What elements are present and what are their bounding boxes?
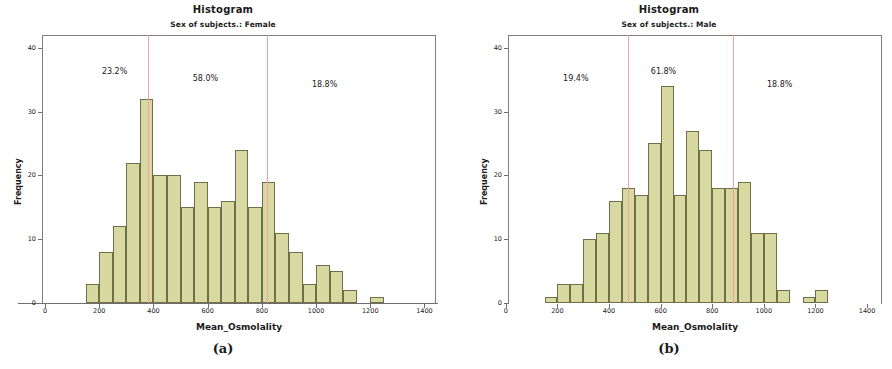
panel-caption-a: (a)	[0, 341, 446, 356]
histogram-bar	[208, 207, 222, 303]
histogram-bar	[235, 150, 249, 303]
x-tick-label: 0	[30, 307, 60, 315]
y-tick-label: 30	[20, 108, 36, 116]
x-tick-mark	[764, 304, 765, 308]
y-axis-label-a: Frequency	[14, 158, 23, 205]
histogram-bar	[751, 233, 764, 303]
x-tick-mark	[867, 304, 868, 308]
x-tick-label: 1000	[301, 307, 331, 315]
x-tick-mark	[661, 304, 662, 308]
panel-b: Histogram Sex of subjects.: Male Frequen…	[446, 0, 892, 369]
x-axis-line-a	[18, 303, 438, 304]
histogram-bar	[248, 207, 262, 303]
y-tick-mark	[38, 239, 42, 240]
x-tick-mark	[316, 304, 317, 308]
y-tick-label: 30	[486, 108, 502, 116]
x-axis-label-a: Mean_Osmolality	[42, 322, 436, 332]
histogram-bar	[557, 284, 570, 303]
chart-subtitle: Sex of subjects.: Female	[0, 20, 446, 29]
percent-annotation: 61.8%	[651, 67, 676, 76]
histogram-bar	[661, 86, 674, 303]
x-tick-label: 800	[247, 307, 277, 315]
histogram-bar	[126, 163, 140, 303]
x-tick-label: 600	[646, 307, 676, 315]
percent-annotation: 18.8%	[312, 80, 337, 89]
x-tick-mark	[153, 304, 154, 308]
x-tick-mark	[262, 304, 263, 308]
x-tick-label: 800	[697, 307, 727, 315]
x-axis-label-b: Mean_Osmolality	[508, 322, 882, 332]
y-tick-label: 0	[486, 299, 502, 307]
x-tick-label: 1400	[409, 307, 439, 315]
y-tick-mark	[504, 239, 508, 240]
histogram-bar	[289, 252, 303, 303]
histogram-bar	[712, 188, 725, 303]
histogram-bar	[303, 284, 317, 303]
histogram-bar	[815, 290, 828, 303]
histogram-bar	[343, 290, 357, 303]
histogram-bar	[570, 284, 583, 303]
histogram-bar	[275, 233, 289, 303]
y-tick-mark	[504, 112, 508, 113]
x-tick-label: 400	[594, 307, 624, 315]
x-tick-mark	[712, 304, 713, 308]
histogram-bar	[330, 271, 344, 303]
x-tick-label: 200	[542, 307, 572, 315]
panel-a: Histogram Sex of subjects.: Female Frequ…	[0, 0, 446, 369]
y-tick-mark	[38, 175, 42, 176]
x-tick-label: 400	[138, 307, 168, 315]
percent-annotation: 19.4%	[563, 74, 588, 83]
percent-annotation: 23.2%	[102, 67, 127, 76]
reference-line	[267, 35, 268, 303]
y-tick-mark	[38, 303, 42, 304]
percent-annotation: 58.0%	[193, 74, 218, 83]
histogram-bar	[648, 143, 661, 303]
histogram-bar	[370, 297, 384, 303]
histogram-bar	[153, 175, 167, 303]
panel-caption-b: (b)	[446, 341, 892, 356]
histogram-bar	[725, 188, 738, 303]
x-tick-mark	[99, 304, 100, 308]
histogram-bar	[262, 182, 276, 303]
y-tick-label: 20	[486, 171, 502, 179]
x-tick-mark	[45, 304, 46, 308]
figure-container: Histogram Sex of subjects.: Female Frequ…	[0, 0, 892, 369]
percent-annotation: 18.8%	[767, 80, 792, 89]
histogram-bar	[635, 195, 648, 303]
y-tick-label: 40	[20, 44, 36, 52]
x-tick-mark	[815, 304, 816, 308]
reference-line	[148, 35, 149, 303]
x-tick-label: 1200	[800, 307, 830, 315]
histogram-bar	[609, 201, 622, 303]
y-tick-label: 40	[486, 44, 502, 52]
y-tick-label: 10	[20, 235, 36, 243]
reference-line	[628, 35, 629, 303]
chart-title: Histogram	[446, 4, 892, 15]
x-tick-mark	[557, 304, 558, 308]
histogram-bar	[777, 290, 790, 303]
histogram-bar	[99, 252, 113, 303]
y-tick-label: 10	[486, 235, 502, 243]
histogram-bar	[140, 99, 154, 303]
x-tick-label: 1200	[355, 307, 385, 315]
x-tick-label: 0	[491, 307, 521, 315]
histogram-bar	[764, 233, 777, 303]
y-tick-label: 20	[20, 171, 36, 179]
y-tick-label: 0	[20, 299, 36, 307]
x-tick-label: 600	[193, 307, 223, 315]
x-tick-mark	[370, 304, 371, 308]
histogram-bar	[583, 239, 596, 303]
histogram-bar	[86, 284, 100, 303]
y-tick-mark	[38, 48, 42, 49]
y-tick-mark	[504, 175, 508, 176]
x-tick-mark	[424, 304, 425, 308]
x-tick-mark	[609, 304, 610, 308]
chart-title: Histogram	[0, 4, 446, 15]
x-tick-mark	[208, 304, 209, 308]
histogram-bar	[686, 131, 699, 303]
histogram-bar	[545, 297, 558, 303]
histogram-bar	[181, 207, 195, 303]
y-tick-mark	[504, 48, 508, 49]
x-tick-label: 1000	[749, 307, 779, 315]
histogram-bar	[113, 226, 127, 303]
